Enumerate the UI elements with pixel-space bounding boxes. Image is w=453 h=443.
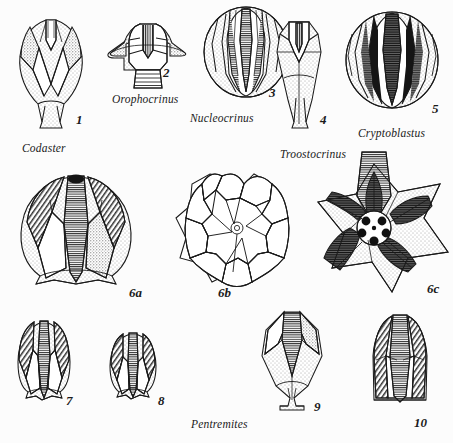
number-6b: 6b xyxy=(218,285,231,301)
specimen-pentremites-7 xyxy=(18,321,70,400)
number-5: 5 xyxy=(432,101,439,117)
specimen-nucleocrinus-3 xyxy=(204,7,288,97)
number-9: 9 xyxy=(314,399,321,415)
blastoid-figure-plate xyxy=(0,0,453,443)
number-7: 7 xyxy=(66,393,73,409)
troostocrinus-label: Troostocrinus xyxy=(280,148,346,160)
cryptoblastus-label: Cryptoblastus xyxy=(358,127,425,139)
specimen-pentremites-8 xyxy=(110,333,156,399)
orophocrinus-label: Orophocrinus xyxy=(112,93,179,105)
nucleocrinus-label: Nucleocrinus xyxy=(190,112,254,124)
number-4: 4 xyxy=(320,112,327,128)
number-3: 3 xyxy=(269,85,276,101)
specimen-pentremites-10 xyxy=(373,315,427,402)
pentremites-label: Pentremites xyxy=(191,418,248,430)
number-8: 8 xyxy=(158,393,165,409)
number-10: 10 xyxy=(414,415,427,431)
codaster-label: Codaster xyxy=(22,142,66,154)
number-6c: 6c xyxy=(427,281,439,297)
number-2: 2 xyxy=(163,65,170,81)
specimen-cryptoblastus-5 xyxy=(346,12,438,108)
number-1: 1 xyxy=(76,112,83,128)
number-6a: 6a xyxy=(129,285,142,301)
